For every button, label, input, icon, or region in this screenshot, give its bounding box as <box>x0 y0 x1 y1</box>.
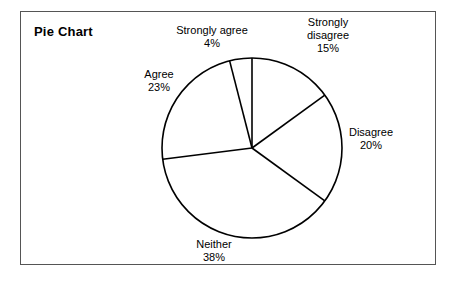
slice-label-agree: Agree 23% <box>128 68 190 94</box>
slice-label-neither-name: Neither <box>196 238 231 250</box>
slice-label-strongly-agree-pct: 4% <box>164 37 260 50</box>
slice-label-disagree-pct: 20% <box>334 139 408 152</box>
slice-label-disagree: Disagree 20% <box>334 126 408 152</box>
slice-label-agree-name: Agree <box>144 68 173 80</box>
slice-label-strongly-disagree: Strongly disagree 15% <box>286 16 370 55</box>
slice-label-strongly-agree-name: Strongly agree <box>176 24 248 36</box>
pie-divider-strongly-agree <box>230 61 252 148</box>
pie-divider-neither <box>252 148 325 201</box>
slice-label-disagree-name: Disagree <box>349 126 393 138</box>
slice-label-strongly-disagree-line2: disagree <box>286 29 370 42</box>
pie-divider-disagree <box>252 95 325 148</box>
slice-label-neither: Neither 38% <box>176 238 252 264</box>
slice-label-strongly-disagree-pct: 15% <box>286 42 370 55</box>
slice-label-strongly-agree: Strongly agree 4% <box>164 24 260 50</box>
pie-divider-agree <box>163 148 252 159</box>
slice-label-strongly-disagree-line1: Strongly <box>308 16 348 28</box>
slice-label-neither-pct: 38% <box>176 251 252 264</box>
slice-label-agree-pct: 23% <box>128 81 190 94</box>
